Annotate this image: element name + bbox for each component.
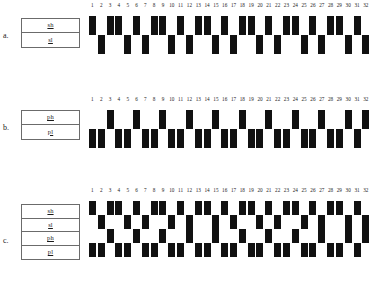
mark-cell — [336, 201, 343, 215]
mark-cell — [283, 16, 290, 35]
panel-c-letter: c. — [3, 237, 9, 245]
mark-cell — [336, 129, 343, 148]
mark-cell — [354, 129, 361, 148]
mark-cell — [292, 201, 299, 215]
panel-a-legend-box: sh sl — [21, 18, 80, 48]
panel-a-legend-label-sl: sl — [48, 37, 53, 44]
mark-cell — [142, 243, 149, 257]
mark-cell — [248, 129, 255, 148]
mark-cell — [256, 129, 263, 148]
mark-cell — [327, 16, 334, 35]
mark-cell — [256, 243, 263, 257]
mark-cell — [168, 35, 175, 54]
mark-cell — [159, 16, 166, 35]
mark-cell — [177, 129, 184, 148]
mark-cell — [195, 243, 202, 257]
mark-cell — [309, 129, 316, 148]
mark-cell — [301, 129, 308, 148]
mark-cell — [151, 16, 158, 35]
mark-cell — [336, 16, 343, 35]
mark-cell — [186, 35, 193, 54]
mark-cell — [124, 129, 131, 148]
mark-cell — [177, 201, 184, 215]
mark-cell — [265, 16, 272, 35]
mark-cell — [292, 110, 299, 129]
panel-c-legend-label-ph: ph — [47, 235, 54, 242]
mark-cell — [239, 16, 246, 35]
mark-cell — [159, 110, 166, 129]
mark-cell — [336, 243, 343, 257]
mark-cell — [98, 215, 105, 229]
mark-cell — [186, 229, 193, 243]
mark-cell — [283, 243, 290, 257]
panel-a-legend-label-sh: sh — [47, 22, 53, 29]
panel-b-legend-box: ph pl — [21, 110, 80, 140]
panel-c-legend-box: sh sl ph pl — [21, 204, 80, 260]
mark-cell — [292, 229, 299, 243]
mark-cell — [265, 110, 272, 129]
mark-cell — [133, 201, 140, 215]
mark-cell — [327, 129, 334, 148]
mark-cell — [124, 243, 131, 257]
panel-b-tick-row: 1234567891011121314151617181920212223242… — [88, 95, 370, 104]
mark-cell — [151, 201, 158, 215]
mark-cell — [318, 229, 325, 243]
mark-cell — [212, 35, 219, 54]
mark-cell — [274, 35, 281, 54]
mark-cell — [124, 215, 131, 229]
mark-cell — [327, 201, 334, 215]
mark-cell — [159, 229, 166, 243]
panel-b-legend-row-ph: ph — [22, 111, 79, 125]
mark-cell — [186, 215, 193, 229]
mark-cell — [283, 201, 290, 215]
mark-cell — [354, 243, 361, 257]
panel-a-legend-row-sl: sl — [22, 33, 79, 47]
mark-cell — [274, 129, 281, 148]
mark-cell — [151, 243, 158, 257]
mark-cell — [230, 35, 237, 54]
panel-a-legend-row-sh: sh — [22, 19, 79, 33]
tick-label: 32 — [360, 95, 371, 104]
mark-cell — [230, 215, 237, 229]
mark-cell — [89, 243, 96, 257]
mark-cell — [301, 215, 308, 229]
panel-a-letter: a. — [3, 32, 9, 40]
mark-cell — [248, 243, 255, 257]
mark-cell — [115, 129, 122, 148]
panel-c-legend-label-pl: pl — [48, 249, 53, 256]
mark-cell — [107, 16, 114, 35]
panel-c-legend-row-ph: ph — [22, 232, 79, 246]
mark-cell — [204, 16, 211, 35]
mark-cell — [345, 215, 352, 229]
mark-cell — [124, 35, 131, 54]
panel-b-legend-label-pl: pl — [48, 129, 53, 136]
mark-cell — [115, 201, 122, 215]
mark-cell — [177, 243, 184, 257]
mark-cell — [362, 229, 369, 243]
panel-c-legend-label-sh: sh — [47, 208, 53, 215]
mark-cell — [204, 129, 211, 148]
mark-cell — [265, 201, 272, 215]
mark-cell — [230, 243, 237, 257]
tick-label: 32 — [360, 1, 371, 10]
mark-cell — [133, 16, 140, 35]
mark-cell — [221, 201, 228, 215]
mark-cell — [248, 16, 255, 35]
mark-cell — [89, 201, 96, 215]
mark-cell — [318, 35, 325, 54]
mark-cell — [142, 215, 149, 229]
mark-cell — [345, 110, 352, 129]
mark-cell — [212, 229, 219, 243]
mark-cell — [212, 110, 219, 129]
panel-b-plot — [88, 110, 370, 150]
mark-cell — [177, 16, 184, 35]
mark-cell — [309, 243, 316, 257]
mark-cell — [204, 243, 211, 257]
mark-cell — [221, 243, 228, 257]
mark-cell — [362, 110, 369, 129]
panel-b-legend-label-ph: ph — [47, 114, 54, 121]
mark-cell — [195, 129, 202, 148]
mark-cell — [309, 201, 316, 215]
panel-c-legend-row-sh: sh — [22, 205, 79, 219]
mark-cell — [309, 16, 316, 35]
